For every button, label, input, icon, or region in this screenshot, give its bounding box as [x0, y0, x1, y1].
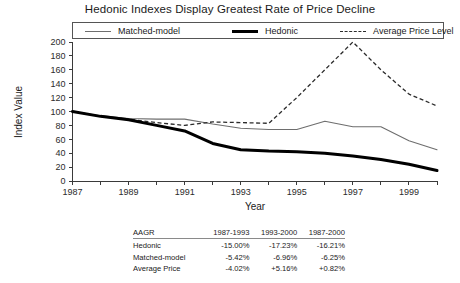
- cell-hedonic-1987-1993: -15.00%: [202, 239, 250, 252]
- y-tick-label: 200: [50, 37, 65, 47]
- y-tick-label: 0: [60, 176, 65, 186]
- chart-legend: Matched-model Hedonic Average Price Leve…: [72, 22, 444, 39]
- cell-hedonic-1987-2000: -16.21%: [297, 239, 345, 252]
- y-tick-label: 120: [50, 93, 65, 103]
- legend-item-average-price-level: Average Price Level: [340, 26, 453, 36]
- y-tick-label: 140: [50, 79, 65, 89]
- y-axis-ticks: 020406080100120140160180200: [50, 37, 72, 186]
- thick-solid-line-icon: [232, 27, 258, 35]
- row-label-average-price: Average Price: [133, 263, 202, 274]
- table-row: Hedonic -15.00% -17.23% -16.21%: [133, 239, 345, 252]
- y-tick-label: 40: [55, 148, 65, 158]
- x-axis-title: Year: [245, 201, 266, 212]
- x-axis-ticks: 1987198919911993199519971999: [62, 181, 437, 197]
- x-tick-label: 1991: [175, 187, 195, 197]
- legend-label-hedonic: Hedonic: [265, 26, 298, 36]
- cell-average-price-1987-2000: +0.82%: [297, 263, 345, 274]
- row-label-hedonic: Hedonic: [133, 239, 202, 252]
- cell-matched-model-1987-2000: -6.25%: [297, 251, 345, 262]
- aagr-table-head: AAGR 1987-1993 1993-2000 1987-2000: [133, 227, 345, 239]
- cell-matched-model-1987-1993: -5.42%: [202, 251, 250, 262]
- dashed-line-icon: [340, 27, 366, 35]
- x-tick-label: 1993: [231, 187, 251, 197]
- table-header-1987-2000: 1987-2000: [297, 227, 345, 239]
- series-line-average-price-level: [73, 42, 438, 125]
- table-header-1993-2000: 1993-2000: [250, 227, 298, 239]
- y-tick-label: 20: [55, 162, 65, 172]
- x-tick-label: 1989: [119, 187, 139, 197]
- y-tick-label: 180: [50, 51, 65, 61]
- series-line-matched-model: [73, 112, 438, 150]
- table-header-row: AAGR 1987-1993 1993-2000 1987-2000: [133, 227, 345, 239]
- legend-item-hedonic: Hedonic: [232, 26, 298, 36]
- y-tick-label: 80: [55, 121, 65, 131]
- x-tick-label: 1995: [287, 187, 307, 197]
- y-tick-label: 160: [50, 65, 65, 75]
- x-tick-label: 1999: [399, 187, 419, 197]
- y-tick-label: 60: [55, 135, 65, 145]
- table-header-aagr: AAGR: [133, 227, 202, 239]
- x-tick-label: 1997: [343, 187, 363, 197]
- x-tick-label: 1987: [62, 187, 82, 197]
- y-tick-label: 100: [50, 107, 65, 117]
- row-label-matched-model: Matched-model: [133, 251, 202, 262]
- cell-average-price-1987-1993: -4.02%: [202, 263, 250, 274]
- table-header-1987-1993: 1987-1993: [202, 227, 250, 239]
- table-row: Average Price -4.02% +5.16% +0.82%: [133, 263, 345, 274]
- cell-matched-model-1993-2000: -6.96%: [250, 251, 298, 262]
- series-line-hedonic: [73, 112, 438, 171]
- aagr-table-container: AAGR 1987-1993 1993-2000 1987-2000 Hedon…: [133, 227, 345, 274]
- thin-solid-line-icon: [85, 27, 111, 35]
- table-row: Matched-model -5.42% -6.96% -6.25%: [133, 251, 345, 262]
- chart-figure: Hedonic Indexes Display Greatest Rate of…: [0, 0, 460, 283]
- y-axis-title: Index Value: [13, 86, 24, 139]
- legend-label-average-price-level: Average Price Level: [373, 26, 453, 36]
- legend-item-matched-model: Matched-model: [85, 26, 180, 36]
- cell-hedonic-1993-2000: -17.23%: [250, 239, 298, 252]
- aagr-table: AAGR 1987-1993 1993-2000 1987-2000 Hedon…: [133, 227, 345, 274]
- legend-label-matched-model: Matched-model: [118, 26, 180, 36]
- aagr-table-body: Hedonic -15.00% -17.23% -16.21% Matched-…: [133, 239, 345, 274]
- cell-average-price-1993-2000: +5.16%: [250, 263, 298, 274]
